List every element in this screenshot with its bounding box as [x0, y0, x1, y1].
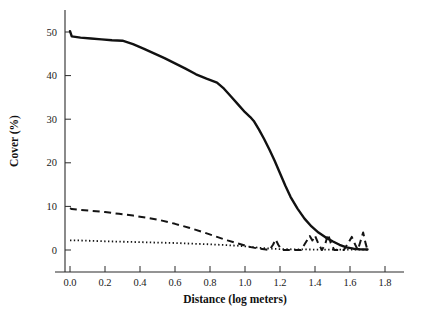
x-tick-label: 1.6	[343, 277, 356, 288]
x-tick-label: 1.4	[308, 277, 322, 288]
x-tick-label: 0.2	[98, 277, 111, 288]
series-dashed-curve	[70, 208, 368, 250]
x-tick-label: 1.8	[378, 277, 391, 288]
x-axis-title: Distance (log meters)	[183, 293, 287, 306]
figure-container: 01020304050 0.00.20.40.60.81.01.21.41.61…	[0, 0, 424, 314]
chart-axes	[55, 10, 404, 272]
x-tick-label: 0.8	[203, 277, 216, 288]
x-tick-label: 0.0	[63, 277, 76, 288]
y-axis-title: Cover (%)	[8, 115, 21, 167]
x-tick-label: 1.2	[273, 277, 286, 288]
y-tick-label: 0	[52, 245, 57, 256]
y-axis-ticks: 01020304050	[47, 27, 72, 256]
x-axis-ticks: 0.00.20.40.60.81.01.21.41.61.8	[63, 266, 391, 288]
y-tick-label: 30	[47, 114, 58, 125]
y-tick-label: 40	[47, 70, 58, 81]
x-tick-label: 0.4	[133, 277, 147, 288]
series-solid-curve	[70, 31, 368, 249]
series-layer	[70, 31, 368, 250]
y-tick-label: 50	[47, 27, 58, 38]
y-tick-label: 20	[47, 157, 58, 168]
x-tick-label: 1.0	[238, 277, 251, 288]
line-chart: 01020304050 0.00.20.40.60.81.01.21.41.61…	[0, 0, 424, 314]
y-tick-label: 10	[47, 201, 58, 212]
x-tick-label: 0.6	[168, 277, 181, 288]
